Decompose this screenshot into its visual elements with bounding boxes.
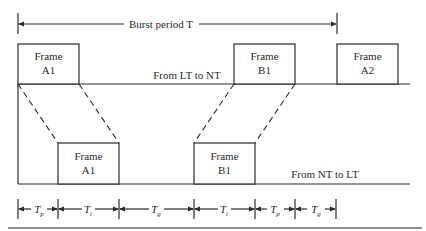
svg-text:Tg: Tg	[311, 203, 321, 218]
b1-propagation-right	[255, 84, 295, 143]
svg-text:Frame: Frame	[210, 150, 238, 162]
interval-tp-1: Tp	[19, 203, 57, 218]
svg-text:Tt: Tt	[220, 203, 229, 218]
svg-text:Frame: Frame	[34, 50, 62, 62]
frame-b1-bottom: Frame B1	[194, 143, 255, 184]
svg-text:B1: B1	[218, 164, 231, 176]
nt-to-lt-timeline: From NT to LT Frame A1 Frame B1	[18, 143, 410, 184]
interval-tt-2: Tt	[195, 203, 254, 218]
frame-a1-top: Frame A1	[18, 44, 79, 84]
propagation-lines	[18, 84, 295, 143]
frame-b1-top: Frame B1	[234, 44, 295, 84]
interval-tp-2: Tp	[256, 203, 294, 218]
interval-dimensions: Tp Tt Tg Tt Tp Tg	[18, 199, 336, 219]
a1-propagation-left	[18, 84, 58, 143]
svg-text:A1: A1	[82, 164, 95, 176]
svg-text:A2: A2	[361, 64, 374, 76]
interval-tt-1: Tt	[59, 203, 118, 218]
svg-text:Tp: Tp	[34, 203, 44, 218]
frame-a2-top: Frame A2	[337, 44, 398, 84]
a1-propagation-right	[79, 84, 119, 143]
burst-period-dimension: Burst period T	[18, 13, 337, 34]
svg-text:B1: B1	[258, 64, 271, 76]
svg-text:Tg: Tg	[151, 203, 161, 218]
burst-period-label: Burst period T	[129, 18, 193, 30]
nt-to-lt-label: From NT to LT	[291, 168, 359, 180]
interval-tg-2: Tg	[296, 203, 335, 218]
svg-text:Tp: Tp	[270, 203, 280, 218]
svg-text:Frame: Frame	[250, 50, 278, 62]
svg-text:Frame: Frame	[74, 150, 102, 162]
svg-text:Frame: Frame	[353, 50, 381, 62]
b1-propagation-left	[194, 84, 234, 143]
interval-tg-1: Tg	[120, 203, 193, 218]
lt-to-nt-label: From LT to NT	[153, 69, 221, 81]
svg-text:Tt: Tt	[84, 203, 93, 218]
frame-a1-bottom: Frame A1	[58, 143, 119, 184]
burst-mode-timing-diagram: Burst period T From LT to NT Frame A1 Fr…	[0, 0, 426, 231]
svg-text:A1: A1	[42, 64, 55, 76]
